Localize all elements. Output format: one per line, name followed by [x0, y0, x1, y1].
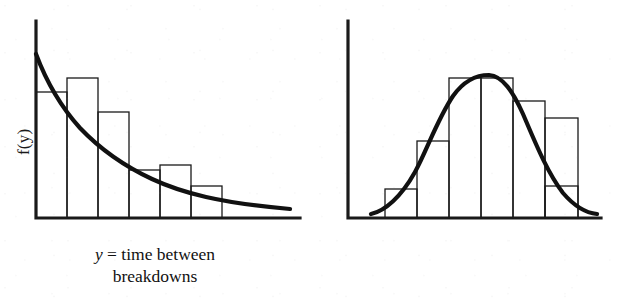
histogram-bar [481, 78, 513, 218]
variable-y: y [95, 244, 103, 264]
density-curve-normal [371, 75, 597, 214]
caption-line-1: y = time between [0, 243, 310, 265]
histogram-bar [36, 92, 67, 218]
density-curve-exponential [36, 54, 290, 209]
caption-line-2: breakdowns [0, 265, 310, 287]
figure-two-distributions: f(y) y = time between breakdowns f(x) [0, 0, 621, 306]
caption-line-1-rest: = time between [103, 244, 215, 264]
histogram-bars [385, 78, 578, 218]
panel-exponential: f(y) y = time between breakdowns [0, 0, 310, 306]
histogram-bar [513, 101, 545, 218]
caption-exponential: y = time between breakdowns [0, 243, 310, 288]
plot-normal [311, 0, 621, 240]
histogram-bar [67, 78, 98, 218]
histogram-bar [191, 186, 222, 218]
histogram-bars [36, 78, 222, 218]
plot-exponential [0, 0, 310, 240]
panel-normal: f(x) x = time to repair a breakdown [311, 0, 621, 306]
histogram-bar [417, 141, 449, 218]
histogram-bar [449, 78, 481, 218]
y-axis-label: f(y) [14, 129, 34, 155]
axes-lines [36, 21, 300, 218]
